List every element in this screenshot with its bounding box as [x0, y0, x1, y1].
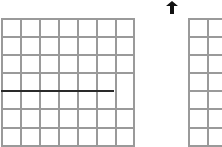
grid-line-horizontal — [188, 127, 222, 129]
grid-line-horizontal — [188, 72, 222, 74]
grid-line-horizontal — [188, 108, 222, 110]
right-grid — [0, 0, 222, 147]
grid-line-horizontal — [188, 18, 222, 20]
grid-line-horizontal — [188, 145, 222, 147]
grid-line-horizontal — [188, 54, 222, 56]
grid-line-horizontal — [188, 36, 222, 38]
grid-line-horizontal — [188, 90, 222, 92]
up-arrow-icon — [166, 1, 178, 14]
